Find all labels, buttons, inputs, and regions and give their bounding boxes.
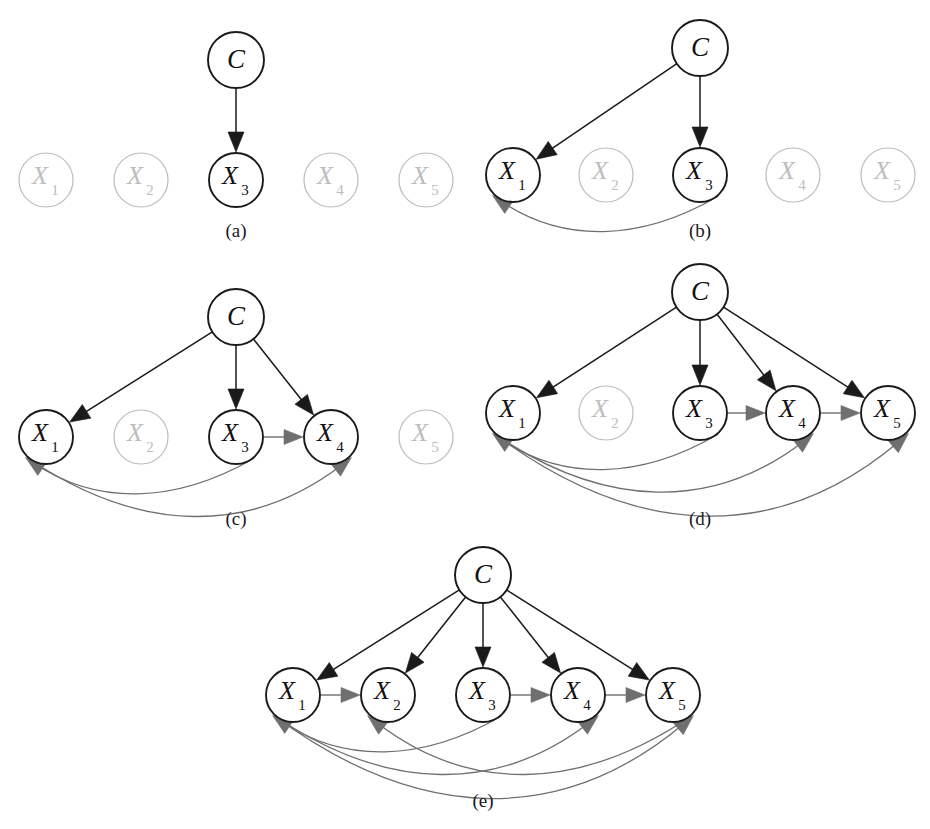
node-b-X2-subscript: 2 [611, 177, 619, 193]
node-c-X2-subscript: 2 [146, 439, 154, 455]
class-arrowhead-d-X5 [843, 380, 864, 398]
node-a-X3[interactable]: X3 [209, 153, 263, 207]
class-edge-d-X4 [717, 314, 769, 382]
node-e-X1[interactable]: X1 [266, 668, 320, 722]
class-edge-e-X2 [412, 597, 465, 664]
node-a-X4[interactable]: X4 [304, 153, 358, 207]
node-d-X5-label: X [873, 394, 891, 423]
node-a-X4-label: X [316, 161, 334, 190]
node-a-X1[interactable]: X1 [19, 153, 73, 207]
feature-edge-c-X3-X4-arrowhead [284, 430, 303, 445]
node-b-X4[interactable]: X4 [766, 148, 820, 202]
node-b-X4-label: X [778, 156, 796, 185]
node-c-C[interactable]: C [208, 289, 264, 345]
node-e-X3-subscript: 3 [488, 697, 496, 713]
node-b-X1[interactable]: X1 [486, 148, 540, 202]
class-arrowhead-a-X3 [228, 132, 244, 152]
node-a-X5[interactable]: X5 [399, 153, 453, 207]
node-d-X4-subscript: 4 [798, 415, 806, 431]
node-c-X1[interactable]: X1 [19, 410, 73, 464]
node-e-C[interactable]: C [455, 547, 511, 603]
class-edges-b [536, 64, 708, 160]
node-d-X1[interactable]: X1 [486, 386, 540, 440]
node-b-C[interactable]: C [672, 20, 728, 76]
node-a-X2-label: X [126, 161, 144, 190]
node-e-X3-label: X [468, 676, 486, 705]
node-a-X2-subscript: 2 [146, 182, 154, 198]
panel-c: CX1X2X3X4X5 [19, 289, 453, 517]
node-b-X3-subscript: 3 [705, 177, 713, 193]
node-b-X2-label: X [591, 156, 609, 185]
node-e-X5[interactable]: X5 [646, 668, 700, 722]
feature-edge-e-X5-X2 [376, 716, 691, 774]
node-d-C[interactable]: C [672, 264, 728, 320]
node-d-X2-label: X [591, 394, 609, 423]
node-d-X1-subscript: 1 [518, 415, 526, 431]
node-d-X4[interactable]: X4 [766, 386, 820, 440]
node-a-X5-label: X [411, 161, 429, 190]
diagram-svg: CX1X2X3X4X5CX1X2X3X4X5CX1X2X3X4X5CX1X2X3… [0, 0, 930, 829]
node-c-X4-label: X [316, 418, 334, 447]
class-arrowhead-c-X3 [228, 389, 244, 409]
feature-edge-d-X4-X5-arrowhead [841, 406, 860, 421]
node-a-X5-subscript: 5 [431, 182, 439, 198]
panel-caption-a: (a) [176, 220, 296, 242]
node-a-X4-subscript: 4 [336, 182, 344, 198]
class-edge-e-X5 [507, 590, 640, 674]
feature-edge-e-X3-X4-arrowhead [531, 688, 550, 703]
node-e-X4[interactable]: X4 [551, 668, 605, 722]
node-c-X4[interactable]: X4 [304, 410, 358, 464]
class-edge-d-X1 [546, 307, 677, 392]
feature-edges-c [26, 430, 352, 517]
node-b-X5[interactable]: X5 [861, 148, 915, 202]
node-a-X3-subscript: 3 [241, 182, 249, 198]
node-e-X1-subscript: 1 [298, 697, 306, 713]
node-b-X2[interactable]: X2 [579, 148, 633, 202]
node-c-X1-subscript: 1 [51, 439, 59, 455]
node-a-C[interactable]: C [208, 32, 264, 88]
class-edge-e-X4 [500, 597, 553, 664]
panel-caption-c: (c) [176, 508, 296, 530]
node-c-X2-label: X [126, 418, 144, 447]
node-d-X2[interactable]: X2 [579, 386, 633, 440]
node-e-X5-subscript: 5 [678, 697, 686, 713]
node-c-X3[interactable]: X3 [209, 410, 263, 464]
node-c-X5-subscript: 5 [431, 439, 439, 455]
class-arrowhead-c-X1 [70, 405, 91, 422]
class-edges-a [228, 88, 244, 152]
node-c-X3-subscript: 3 [241, 439, 249, 455]
node-c-X3-label: X [221, 418, 239, 447]
node-c-X5-label: X [411, 418, 429, 447]
node-c-X2[interactable]: X2 [114, 410, 168, 464]
node-e-X2[interactable]: X2 [361, 668, 415, 722]
class-arrowhead-d-X3 [692, 365, 708, 385]
class-arrowhead-e-X4 [542, 652, 561, 673]
node-c-X5[interactable]: X5 [399, 410, 453, 464]
feature-edge-d-X1-X5 [495, 434, 900, 516]
node-b-X5-label: X [873, 156, 891, 185]
class-arrowhead-e-X3 [475, 647, 491, 667]
class-edges-c [70, 332, 314, 422]
node-c-X4-subscript: 4 [336, 439, 344, 455]
class-edge-b-X1 [545, 64, 677, 153]
class-arrowhead-e-X1 [317, 663, 338, 680]
panel-b: CX1X2X3X4X5 [486, 20, 915, 232]
feature-edge-e-X4-X5-arrowhead [626, 688, 645, 703]
node-b-X4-subscript: 4 [798, 177, 806, 193]
node-d-X1-label: X [498, 394, 516, 423]
feature-edge-e-X1-X2-arrowhead [341, 688, 360, 703]
panel-caption-d: (d) [640, 508, 760, 530]
node-e-X4-label: X [563, 676, 581, 705]
node-e-X4-subscript: 4 [583, 697, 591, 713]
node-a-X2[interactable]: X2 [114, 153, 168, 207]
class-arrowhead-d-X1 [537, 380, 558, 398]
node-b-X5-subscript: 5 [893, 177, 901, 193]
node-b-X1-subscript: 1 [518, 177, 526, 193]
panel-caption-e: (e) [423, 790, 543, 812]
node-d-X3[interactable]: X3 [673, 386, 727, 440]
class-arrowhead-e-X5 [628, 663, 649, 680]
node-d-X3-label: X [685, 394, 703, 423]
node-e-X3[interactable]: X3 [456, 668, 510, 722]
node-d-X5[interactable]: X5 [861, 386, 915, 440]
node-b-X3[interactable]: X3 [673, 148, 727, 202]
